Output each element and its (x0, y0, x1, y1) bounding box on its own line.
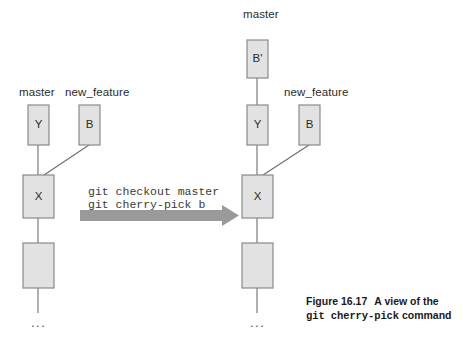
caption-command-mono: git cherry-pick (306, 310, 399, 322)
commit-box-blank (23, 243, 54, 288)
caption-text-part-2: command (402, 309, 452, 321)
branch-label-master-after: master (243, 8, 279, 20)
commit-letter-b-after: B (299, 118, 320, 130)
branch-label-master-before: master (19, 86, 55, 98)
commit-letter-x-before: X (23, 190, 54, 202)
edge-b-to-x (41, 145, 89, 177)
commit-box-blank (242, 243, 273, 288)
caption-figure-number: Figure 16.17 (306, 295, 367, 307)
edge-b-to-x (260, 145, 309, 177)
branch-label-new-feature-before: new_feature (65, 86, 129, 98)
ellipsis-after: ... (250, 315, 265, 330)
command-line-1: git checkout master (88, 185, 219, 199)
commit-letter-x-after: X (242, 190, 273, 202)
figure-root: master new_feature Y B X ... git checkou… (0, 0, 473, 347)
commit-letter-y-before: Y (28, 118, 49, 130)
branch-label-new-feature-after: new_feature (284, 86, 348, 98)
caption-text-part-1: A view of the (374, 295, 438, 307)
commit-letter-b-prime-after: B' (247, 52, 268, 64)
commit-letter-b-before: B (79, 118, 100, 130)
figure-caption: Figure 16.17A view of the git cherry-pic… (306, 294, 452, 323)
ellipsis-before: ... (31, 315, 46, 330)
commit-letter-y-after: Y (247, 118, 268, 130)
command-line-2: git cherry-pick b (88, 198, 205, 212)
